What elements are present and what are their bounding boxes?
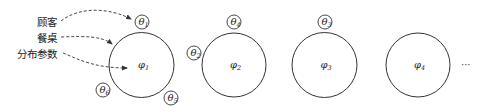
arrow-table-to-circle1 [61,37,112,44]
arrows [61,10,131,68]
phi-2-label: φ2 [230,59,241,72]
ellipsis: ··· [461,59,471,70]
customer-theta-4: θ4 [227,15,241,29]
table-4: φ4 [386,33,450,97]
phi-4-label: φ4 [414,59,425,72]
label-customer: 顾客 [37,16,58,28]
arrow-param-to-phi1 [63,53,127,68]
crp-diagram: 顾客 餐桌 分布参数 φ1 θ1 θ6 θ5 φ2 θ4 [0,0,481,111]
customer-theta-1: θ1 [135,15,149,29]
customer-theta-6: θ6 [96,83,110,97]
label-table: 餐桌 [37,32,58,44]
phi-3-label: φ3 [321,59,332,72]
legend: 顾客 餐桌 分布参数 [17,16,58,60]
customer-theta-5: θ5 [164,91,178,105]
customer-theta-2: θ2 [187,46,201,60]
phi-1-label: φ1 [138,59,149,72]
arrow-customer-to-theta1 [61,10,131,21]
table-3: φ3 θ3 [292,15,357,98]
label-distribution-parameter: 分布参数 [17,48,58,60]
table-2: φ2 θ4 θ2 [187,15,266,97]
table-1: φ1 θ1 θ6 θ5 [96,15,178,105]
customer-theta-3: θ3 [318,15,332,29]
